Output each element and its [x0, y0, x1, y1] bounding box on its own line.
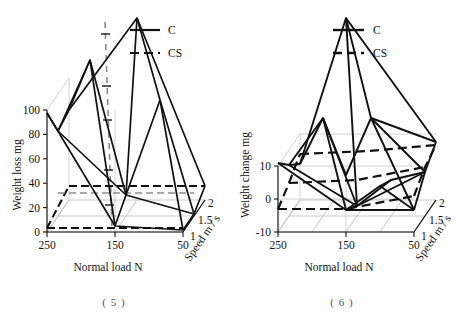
x-tick-150: 150: [337, 239, 355, 251]
y-tick-20: 20: [29, 202, 41, 214]
surface-c: [278, 18, 436, 210]
y-axis-label: Weight change mg: [239, 132, 252, 218]
plot-weight-change: -10 0 10 Weight change mg 250 150 50 Nor…: [228, 0, 456, 325]
y-axis-weight-loss: 0 20 40 60 80 100 Weight loss mg: [11, 104, 47, 238]
x-tick-150: 150: [106, 239, 124, 251]
y-tick-minus10: -10: [256, 226, 272, 238]
z-tick-2: 2: [439, 197, 445, 209]
y-tick-60: 60: [29, 153, 41, 165]
y-tick-0: 0: [265, 193, 271, 205]
z-axis-speed: 1 1.5 2 Speed m / s: [413, 197, 455, 264]
panel-weight-change: -10 0 10 Weight change mg 250 150 50 Nor…: [228, 0, 456, 325]
x-axis-normal-load: 250 150 50 Normal load N: [269, 232, 420, 273]
legend-label-cs: CS: [168, 47, 182, 59]
y-tick-40: 40: [29, 177, 41, 189]
legend-label-cs: CS: [373, 47, 387, 59]
y-axis-weight-change: -10 0 10 Weight change mg: [239, 132, 278, 238]
x-tick-250: 250: [269, 239, 287, 251]
x-tick-250: 250: [38, 239, 56, 251]
panel-caption-6: ( 6 ): [228, 296, 456, 308]
legend-panel-5: C CS: [130, 24, 182, 59]
panel-caption-5: ( 5 ): [0, 296, 228, 308]
z-axis-speed: 1 1.5 2 Speed m / s: [182, 197, 224, 264]
panel-weight-loss: 0 20 40 60 80 100 Weight loss mg 250 150…: [0, 0, 228, 325]
figure-root: 0 20 40 60 80 100 Weight loss mg 250 150…: [0, 0, 456, 325]
y-tick-100: 100: [23, 104, 41, 116]
legend-panel-6: C CS: [333, 24, 387, 59]
legend-label-c: C: [168, 24, 176, 36]
x-axis-label: Normal load N: [74, 261, 144, 273]
x-axis-normal-load: 250 150 50 Normal load N: [38, 232, 189, 273]
x-axis-label: Normal load N: [305, 261, 375, 273]
y-tick-80: 80: [29, 128, 41, 140]
y-tick-0: 0: [34, 226, 40, 238]
z-tick-2: 2: [208, 197, 214, 209]
y-tick-10: 10: [260, 160, 272, 172]
legend-label-c: C: [373, 24, 381, 36]
y-axis-label: Weight loss mg: [11, 139, 24, 211]
plot-weight-loss: 0 20 40 60 80 100 Weight loss mg 250 150…: [0, 0, 228, 325]
